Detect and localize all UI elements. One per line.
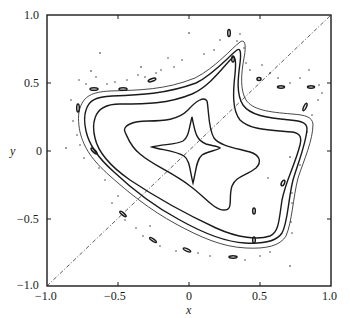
y-axis-label: y bbox=[10, 144, 15, 159]
x-axis-label: x bbox=[186, 303, 191, 318]
inner-contour bbox=[124, 99, 259, 210]
x-tick-0.5: 0.5 bbox=[252, 289, 267, 304]
y-tick-0: 0 bbox=[36, 144, 42, 159]
middle-contour bbox=[94, 57, 301, 238]
y-tick-1.0: 1.0 bbox=[24, 8, 39, 23]
y-tick-neg-0.5: −0.5 bbox=[17, 212, 39, 227]
y-tick-0.5: 0.5 bbox=[24, 76, 39, 91]
outer-contour bbox=[79, 41, 314, 248]
x-tick-0: 0 bbox=[186, 289, 192, 304]
x-tick-neg-1.0: −1.0 bbox=[35, 289, 57, 304]
diagonal-line bbox=[47, 15, 331, 286]
x-tick-neg-0.5: −0.5 bbox=[104, 289, 126, 304]
x-tick-1.0: 1.0 bbox=[322, 289, 337, 304]
phase-portrait-plot bbox=[0, 0, 350, 318]
